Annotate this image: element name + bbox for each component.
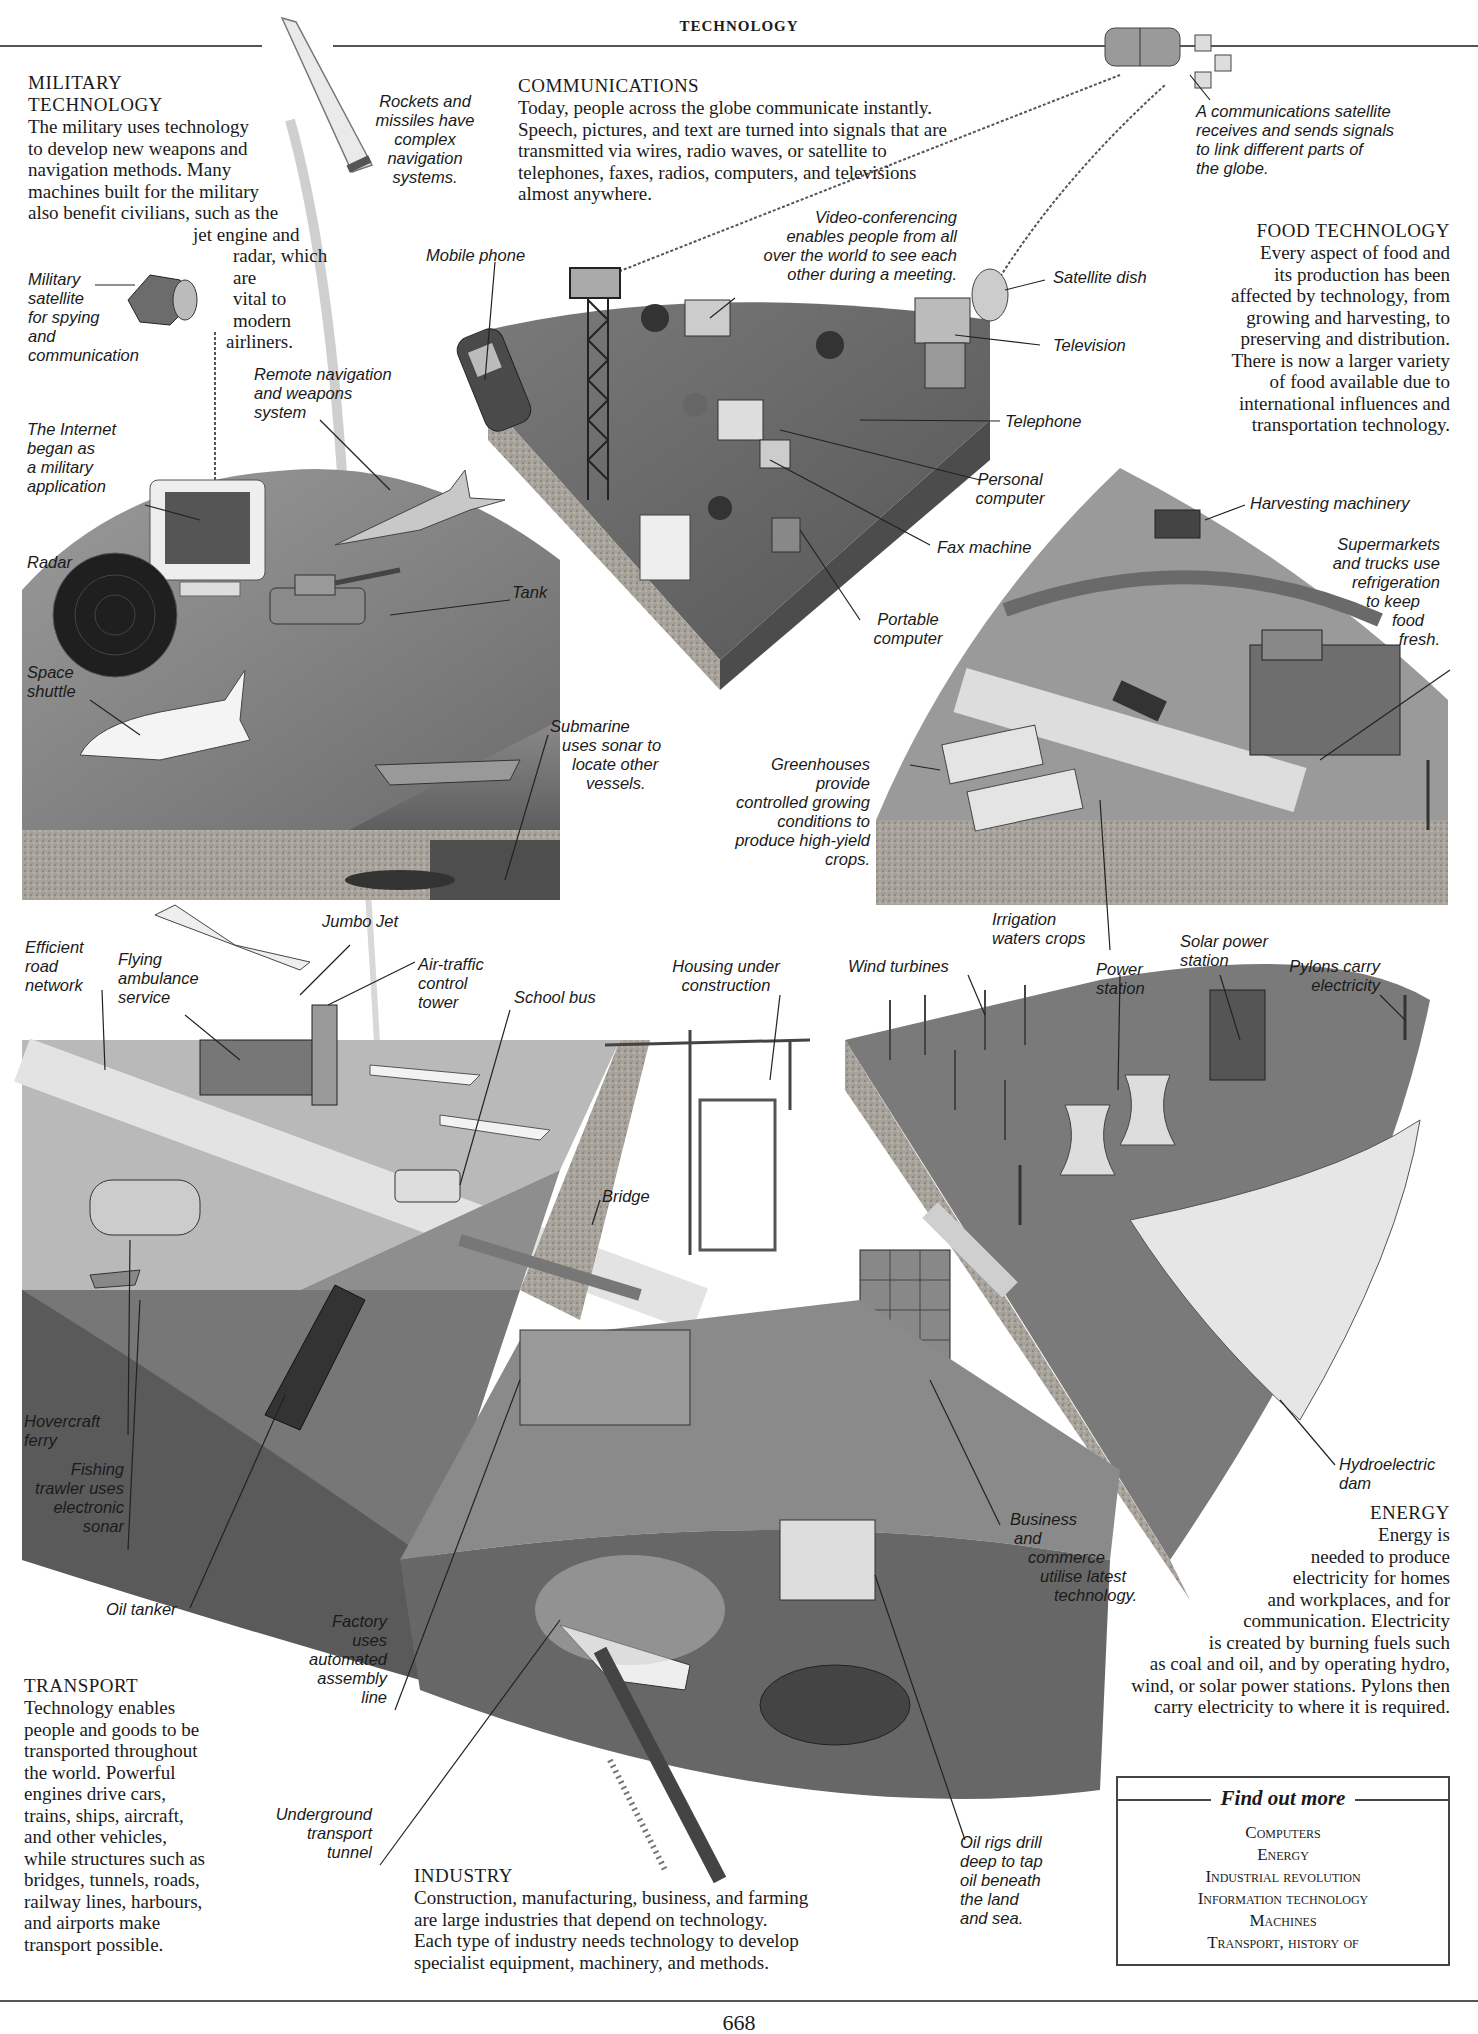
find-out-more-list: Computers Energy Industrial revolution I… bbox=[1118, 1822, 1448, 1954]
factory-icon bbox=[520, 1330, 690, 1425]
label-hovercraft: Hovercraftferry bbox=[24, 1412, 100, 1450]
label-air-traffic: Air-trafficcontroltower bbox=[418, 955, 484, 1012]
label-factory: Factoryusesautomatedassemblyline bbox=[290, 1612, 387, 1707]
label-comm-satellite: A communications satellitereceives and s… bbox=[1196, 102, 1394, 178]
label-fax-machine: Fax machine bbox=[937, 538, 1031, 557]
label-submarine: Submarineuses sonar tolocate othervessel… bbox=[550, 717, 661, 793]
laptop-icon bbox=[772, 518, 800, 552]
label-video-conferencing: Video-conferencingenables people from al… bbox=[720, 208, 957, 284]
section-transport: TRANSPORT Technology enables people and … bbox=[24, 1675, 264, 1955]
oil-rig-base-icon bbox=[760, 1665, 910, 1745]
label-flying-ambulance: Flyingambulanceservice bbox=[118, 950, 199, 1007]
label-television: Television bbox=[1053, 336, 1126, 355]
cross-reference-link[interactable]: Computers bbox=[1118, 1822, 1448, 1844]
solar-power-station-icon bbox=[1210, 990, 1265, 1080]
label-radar: Radar bbox=[27, 553, 72, 572]
label-tank: Tank bbox=[512, 583, 547, 602]
label-portable-computer: Portablecomputer bbox=[858, 610, 958, 648]
air-traffic-tower-icon bbox=[312, 1005, 337, 1105]
cross-reference-link[interactable]: Energy bbox=[1118, 1844, 1448, 1866]
label-remote-navigation: Remote navigationand weaponssystem bbox=[254, 365, 392, 422]
section-title: FOOD TECHNOLOGY bbox=[1150, 220, 1450, 242]
cross-reference-link[interactable]: Industrial revolution bbox=[1118, 1866, 1448, 1888]
label-rockets: Rockets andmissiles havecomplexnavigatio… bbox=[355, 92, 495, 187]
label-harvesting: Harvesting machinery bbox=[1250, 494, 1410, 513]
airport-terminal-icon bbox=[200, 1040, 325, 1095]
label-pylons: Pylons carryelectricity bbox=[1260, 957, 1380, 995]
school-bus-icon bbox=[395, 1170, 460, 1202]
cross-reference-link[interactable]: Transport, history of bbox=[1118, 1932, 1448, 1954]
label-hydroelectric: Hydroelectricdam bbox=[1339, 1455, 1435, 1493]
fax-icon bbox=[760, 440, 790, 468]
communications-satellite-icon bbox=[1105, 28, 1231, 88]
label-personal-computer: Personalcomputer bbox=[960, 470, 1060, 508]
section-food: FOOD TECHNOLOGY Every aspect of food and… bbox=[1150, 220, 1450, 436]
label-supermarkets: Supermarketsand trucks userefrigerationt… bbox=[1270, 535, 1440, 649]
label-irrigation: Irrigationwaters crops bbox=[992, 910, 1086, 948]
section-title: MILITARY bbox=[28, 72, 348, 94]
section-communications: COMMUNICATIONS Today, people across the … bbox=[518, 75, 1078, 205]
submarine-icon bbox=[345, 870, 455, 890]
building-frame-icon bbox=[700, 1100, 775, 1250]
section-title: COMMUNICATIONS bbox=[518, 75, 1078, 97]
label-housing: Housing underconstruction bbox=[656, 957, 796, 995]
pc-icon bbox=[718, 400, 763, 440]
oil-rig-icon bbox=[780, 1520, 875, 1600]
cross-reference-link[interactable]: Information technology bbox=[1118, 1888, 1448, 1910]
label-oil-tanker: Oil tanker bbox=[106, 1600, 177, 1619]
label-bridge: Bridge bbox=[602, 1187, 650, 1206]
footer-rule bbox=[0, 2000, 1478, 2002]
label-fishing-trawler: Fishingtrawler useselectronicsonar bbox=[24, 1460, 124, 1536]
section-body: Today, people across the globe communica… bbox=[518, 97, 1078, 205]
desk-drawers-icon bbox=[640, 515, 690, 580]
find-out-more-title: Find out more bbox=[1118, 1786, 1448, 1811]
label-power-station: Powerstation bbox=[1096, 960, 1145, 998]
section-body: Construction, manufacturing, business, a… bbox=[414, 1887, 934, 1973]
military-slab bbox=[22, 469, 560, 900]
find-out-more-box: Find out more Computers Energy Industria… bbox=[1116, 1776, 1450, 1966]
page-number: 668 bbox=[0, 2010, 1478, 2034]
satellite-dish-icon bbox=[972, 269, 1008, 321]
section-body: Every aspect of food and its production … bbox=[1150, 242, 1450, 436]
label-efficient-road: Efficientroadnetwork bbox=[25, 938, 84, 995]
label-underground: Undergroundtransporttunnel bbox=[258, 1805, 372, 1862]
label-wind-turbines: Wind turbines bbox=[848, 957, 949, 976]
label-school-bus: School bus bbox=[514, 988, 596, 1007]
label-internet: The Internetbegan asa militaryapplicatio… bbox=[27, 420, 116, 496]
label-solar-power: Solar powerstation bbox=[1180, 932, 1268, 970]
section-industry: INDUSTRY Construction, manufacturing, bu… bbox=[414, 1865, 934, 1973]
label-jumbo-jet: Jumbo Jet bbox=[322, 912, 398, 931]
section-body: Technology enables people and goods to b… bbox=[24, 1697, 264, 1955]
harvester-icon bbox=[1155, 510, 1200, 538]
video-monitor-icon bbox=[685, 300, 730, 336]
section-title: INDUSTRY bbox=[414, 1865, 934, 1887]
label-mobile-phone: Mobile phone bbox=[426, 246, 525, 265]
cross-reference-link[interactable]: Machines bbox=[1118, 1910, 1448, 1932]
label-telephone: Telephone bbox=[1005, 412, 1081, 431]
label-oil-rigs: Oil rigs drilldeep to tapoil beneaththe … bbox=[960, 1833, 1043, 1928]
label-business: Businessandcommerceutilise latesttechnol… bbox=[1010, 1510, 1137, 1605]
hovercraft-icon bbox=[90, 1180, 200, 1235]
label-military-satellite: Militarysatellitefor spyingandcommunicat… bbox=[28, 270, 139, 365]
section-title: TRANSPORT bbox=[24, 1675, 264, 1697]
tv-stand-icon bbox=[925, 343, 965, 388]
label-greenhouses: Greenhousesprovidecontrolled growingcond… bbox=[690, 755, 870, 869]
label-satellite-dish: Satellite dish bbox=[1053, 268, 1147, 287]
label-space-shuttle: Spaceshuttle bbox=[27, 663, 76, 701]
supermarket-icon bbox=[1250, 645, 1400, 755]
computer-monitor-icon bbox=[150, 480, 265, 596]
section-title: TECHNOLOGY bbox=[28, 94, 348, 116]
